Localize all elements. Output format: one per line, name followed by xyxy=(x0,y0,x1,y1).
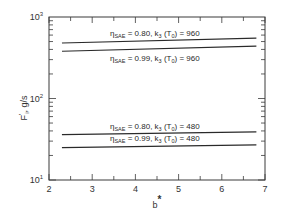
series-line xyxy=(62,46,256,51)
series-annotation: ηSAE = 0.99, k3 (T0) = 480 xyxy=(110,134,200,144)
series-line xyxy=(62,145,256,148)
y-tick-label: 103 xyxy=(30,11,44,22)
x-tick-label: 7 xyxy=(262,184,267,194)
x-axis-ticks: 234567 xyxy=(46,17,267,194)
y-axis-label: F'i, g/s xyxy=(18,95,30,121)
y-tick-label: 101 xyxy=(30,174,44,185)
series-annotations: ηSAE = 0.80, k3 (T0) = 960ηSAE = 0.99, k… xyxy=(110,29,200,144)
chart-figure: 234567 101102103 ηSAE = 0.80, k3 (T0) = … xyxy=(0,0,285,218)
y-tick-label: 102 xyxy=(30,93,44,104)
x-axis-label: b* xyxy=(153,194,162,210)
x-tick-label: 5 xyxy=(176,184,181,194)
series-annotation: ηSAE = 0.99, k3 (T0) = 960 xyxy=(110,54,200,64)
series-annotation: ηSAE = 0.80, k3 (T0) = 960 xyxy=(110,29,200,39)
series-annotation: ηSAE = 0.80, k3 (T0) = 480 xyxy=(110,122,200,132)
x-tick-label: 2 xyxy=(46,184,51,194)
x-tick-label: 6 xyxy=(219,184,224,194)
x-tick-label: 4 xyxy=(133,184,138,194)
x-tick-label: 3 xyxy=(90,184,95,194)
plot-frame xyxy=(49,17,265,180)
series-line xyxy=(62,132,256,135)
plot-border xyxy=(49,17,265,180)
